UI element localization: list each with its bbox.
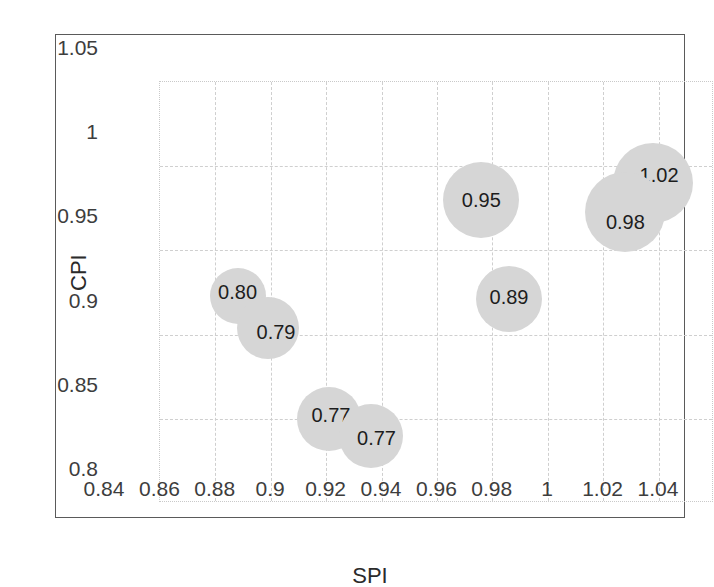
x-tick-label: 0.86 [139, 478, 180, 499]
x-tick-label: 0.92 [305, 478, 346, 499]
y-tick-label: 0.9 [56, 289, 98, 310]
x-tick-label: 1 [541, 478, 553, 499]
x-tick-label: 0.98 [471, 478, 512, 499]
plot-area: 0.800.790.770.770.950.891.020.98 [159, 81, 713, 502]
x-tick-label: 0.9 [256, 478, 285, 499]
y-tick-label: 0.95 [56, 205, 98, 226]
bubble-value-label: 0.95 [462, 190, 501, 210]
bubble-value-label: 0.89 [490, 287, 529, 307]
gridline-vertical [548, 82, 549, 501]
bubble-value-label: 0.80 [218, 282, 257, 302]
y-tick-label: 1 [56, 121, 98, 142]
x-tick-label: 0.94 [361, 478, 402, 499]
gridline-vertical [271, 82, 272, 501]
y-tick-label: 0.85 [56, 373, 98, 394]
gridline-horizontal [160, 419, 712, 420]
x-axis-title: SPI [56, 563, 684, 587]
y-tick-label: 1.05 [56, 37, 98, 58]
gridline-vertical [437, 82, 438, 501]
bubble-value-label: 0.77 [357, 428, 396, 448]
gridline-vertical [603, 82, 604, 501]
bubble-value-label: 0.79 [257, 322, 296, 342]
x-tick-label: 0.88 [194, 478, 235, 499]
x-tick-label: 1.02 [582, 478, 623, 499]
bubble-value-label: 0.98 [606, 212, 645, 232]
y-tick-label: 0.8 [56, 458, 98, 479]
x-tick-label: 0.84 [84, 478, 125, 499]
x-tick-label: 1.04 [638, 478, 679, 499]
y-axis-title: CPI [66, 254, 92, 291]
chart-figure-frame: 0.800.790.770.770.950.891.020.98 0.80.85… [55, 34, 685, 518]
x-tick-label: 0.96 [416, 478, 457, 499]
